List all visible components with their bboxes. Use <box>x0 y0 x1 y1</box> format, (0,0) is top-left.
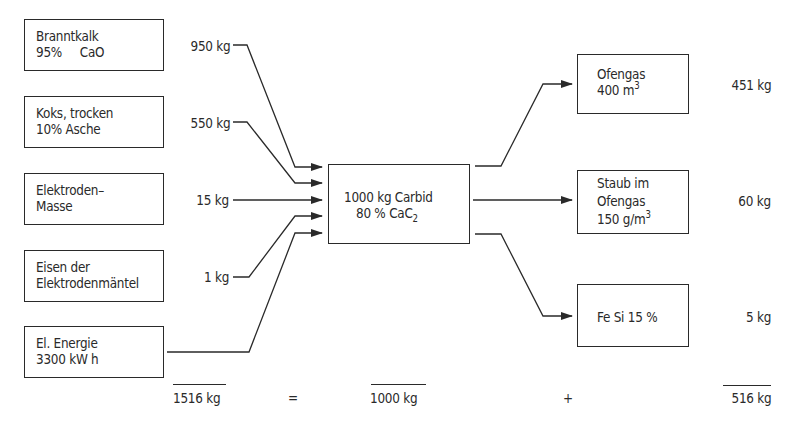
center-box-carbid: 1000 kg Carbid 80 % CaC2 <box>328 164 470 244</box>
balance-input-total: 1516 kg <box>173 390 220 406</box>
output-label-line1: Staub im <box>597 175 649 191</box>
input-label-line1: Branntkalk <box>36 28 98 44</box>
input-label-line2: 3300 kW h <box>36 351 98 367</box>
output-amount-fesi: 5 kg <box>746 309 771 325</box>
balance-equals-sign: = <box>288 390 298 406</box>
balance-product: 1000 kg <box>370 390 417 406</box>
balance-plus-sign: + <box>563 390 573 406</box>
arrow-branntkalk <box>233 45 322 167</box>
balance-output-total: 516 kg <box>731 390 771 406</box>
output-volume-superscript: 3 <box>634 80 639 91</box>
input-label-line2: Masse <box>36 198 72 214</box>
output-label-line2: Ofengas <box>597 193 645 209</box>
center-label-line2: 80 % CaC2 <box>356 205 418 221</box>
input-label-line2: 10% Asche <box>36 121 100 137</box>
center-label-line1: 1000 kg Carbid <box>344 189 433 205</box>
overline-output-total <box>723 385 771 386</box>
output-amount-ofengas: 451 kg <box>731 77 771 93</box>
center-formula: 80 % CaC <box>356 205 413 221</box>
overline-product <box>371 384 426 385</box>
output-box-ofengas: Ofengas 400 m3 <box>577 54 689 114</box>
overline-input-total <box>173 384 226 385</box>
input-box-koks: Koks, trocken 10% Asche <box>24 96 164 148</box>
input-label-line1: El. Energie <box>36 335 98 351</box>
output-box-fesi: Fe Si 15 % <box>577 284 689 347</box>
output-volume: 400 m <box>597 82 634 98</box>
input-amount-eisen: 1 kg <box>204 269 229 285</box>
arrow-eisen <box>233 216 322 277</box>
input-label-line1: Koks, trocken <box>36 105 113 121</box>
input-label-line2: Elektrodenmäntel <box>36 275 139 291</box>
output-box-staub: Staub im Ofengas 150 g/m3 <box>577 170 689 234</box>
input-box-elektrodenmasse: Elektroden– Masse <box>24 173 164 225</box>
output-label-line3: 150 g/m3 <box>597 211 651 227</box>
input-box-branntkalk: Branntkalk 95% CaO <box>24 19 164 71</box>
input-box-eisen: Eisen der Elektrodenmäntel <box>24 250 164 302</box>
output-concentration: 150 g/m <box>597 211 645 227</box>
arrow-energie <box>167 233 322 352</box>
output-concentration-superscript: 3 <box>645 209 650 220</box>
arrow-koks <box>233 122 322 183</box>
center-formula-subscript: 2 <box>413 213 418 224</box>
arrow-ofengas <box>475 84 572 166</box>
input-amount-branntkalk: 950 kg <box>190 38 230 54</box>
output-label-line1: Fe Si 15 % <box>597 309 657 325</box>
arrow-fesi <box>475 234 572 316</box>
input-label-line1: Elektroden– <box>36 182 104 198</box>
input-amount-koks: 550 kg <box>190 115 230 131</box>
input-label-line2: 95% CaO <box>36 44 104 60</box>
output-amount-staub: 60 kg <box>739 193 771 209</box>
input-box-energie: El. Energie 3300 kW h <box>24 326 164 378</box>
input-amount-elektrodenmasse: 15 kg <box>197 192 229 208</box>
input-label-line1: Eisen der <box>36 259 90 275</box>
output-label-line2: 400 m3 <box>597 82 639 98</box>
